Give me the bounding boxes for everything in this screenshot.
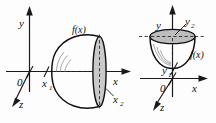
right-x-axis-label: x [191, 82, 197, 94]
left-z-axis-label: z [18, 98, 24, 110]
left-origin-label: 0 [17, 76, 23, 88]
left-upper-bound-label: x 2 [112, 93, 124, 108]
left-x-axis-label: x [112, 75, 118, 87]
panel-right-revolution-about-y-axis: y x z 0 y 2 y 1 f(x) [139, 5, 208, 113]
right-origin-label: 0 [160, 82, 166, 94]
svg-text:1: 1 [168, 71, 172, 79]
right-upper-bound-label: y 2 [184, 15, 195, 30]
left-y-axis-label: y [18, 17, 24, 29]
left-surface-curvature-hints [57, 52, 72, 72]
panel-left-revolution-about-x-axis: y x z 0 x 1 x 2 f(x) [6, 6, 131, 110]
left-y-axis [26, 6, 33, 92]
left-x-axis [6, 68, 131, 75]
right-y-axis-label: y [155, 19, 161, 31]
math-figure: y x z 0 x 1 x 2 f(x) [0, 0, 216, 123]
right-z-axis-label: z [159, 101, 165, 113]
svg-text:1: 1 [49, 84, 53, 92]
svg-text:x: x [41, 77, 47, 89]
svg-text:x: x [112, 93, 118, 105]
svg-text:y: y [161, 64, 167, 76]
left-lower-bound-label: x 1 [41, 77, 53, 92]
right-function-label: f(x) [190, 49, 205, 61]
svg-text:y: y [184, 15, 190, 27]
right-surface-curvature-hints [154, 44, 172, 66]
svg-text:2: 2 [191, 22, 195, 30]
left-function-label: f(x) [72, 24, 87, 36]
svg-text:2: 2 [120, 100, 124, 108]
right-lower-bound-label: y 1 [161, 64, 172, 79]
